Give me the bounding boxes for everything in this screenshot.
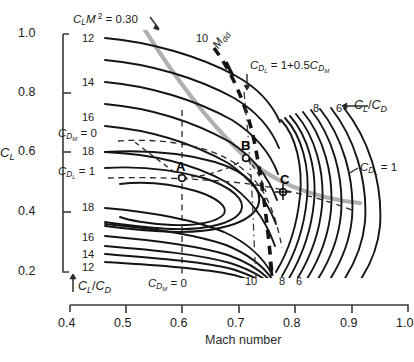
x-tick-0-6: 0.6	[170, 317, 187, 330]
boundary-ticks	[270, 262, 272, 276]
x-tick-0-4: 0.4	[58, 317, 75, 330]
y-tick-0-2: 0.2	[18, 265, 35, 278]
clm2-value: 0.30	[116, 13, 138, 25]
annotation-clm2: CLM 2 = 0.30	[73, 13, 138, 27]
x-axis-label: Mach number	[205, 334, 281, 347]
point-b-label: B	[241, 139, 250, 152]
annotation-arrows	[70, 17, 368, 292]
line-a-upper-left	[132, 140, 182, 178]
y-axis-label: CL	[0, 146, 15, 162]
x-axis	[70, 305, 408, 313]
y-tick-0-4: 0.4	[18, 205, 35, 218]
y-tick-0-6: 0.6	[18, 145, 35, 158]
y-tick-1-0: 1.0	[18, 27, 35, 40]
contour-label-14-bottom: 14	[82, 249, 94, 260]
y-axis	[63, 34, 71, 272]
point-a-marker	[179, 175, 186, 182]
x-tick-0-9: 0.9	[340, 317, 357, 330]
annotation-cdl-one-left: CDL = 1	[58, 166, 95, 181]
cdl-expr-value: 1+0.5	[281, 59, 310, 71]
point-b-marker	[243, 155, 250, 162]
figure-clcd-contour-chart: 1.0 0.8 0.6 0.4 0.2 CL 0.4 0.5 0.6 0.7 0…	[0, 0, 414, 362]
contour-arcs-right	[276, 108, 380, 303]
y-tick-0-8: 0.8	[18, 86, 35, 99]
contour-label-16-bottom: 16	[82, 232, 94, 243]
contour-label-12-top: 12	[82, 33, 94, 44]
contour-label-14-top: 14	[82, 77, 94, 88]
contour-label-6-right: 6	[336, 103, 342, 114]
contour-label-18-top: 18	[82, 146, 94, 157]
contour-label-6-bottom: 6	[296, 276, 302, 287]
annotation-cdm-zero-left: CDM = 0	[58, 128, 97, 143]
contour-label-12-bottom: 12	[82, 262, 94, 273]
x-tick-0-5: 0.5	[114, 317, 131, 330]
annotation-cdl-one-right: CDL = 1	[360, 162, 397, 177]
x-tick-0-8: 0.8	[283, 317, 300, 330]
x-tick-1-0: 1.0	[396, 317, 413, 330]
chart-svg	[0, 0, 414, 362]
cdm-zero-bottom-value: 0	[180, 277, 186, 289]
cdl-one-right-value: 1	[391, 161, 397, 173]
annotation-clcd-bottom: CL/CD	[78, 280, 111, 295]
contour-label-18-bottom: 18	[82, 202, 94, 213]
point-c-label: C	[280, 173, 289, 186]
annotation-cdm-zero-bottom: CDM = 0	[148, 278, 187, 293]
annotation-clcd-right: CL/CD	[354, 99, 387, 114]
contour-label-10-bottom: 10	[245, 276, 257, 287]
contour-label-8-bottom: 8	[279, 276, 285, 287]
point-a-label: A	[176, 160, 185, 173]
annotation-cdl-expression: CDL = 1+0.5CDM	[250, 60, 329, 75]
contour-label-16-top: 16	[82, 112, 94, 123]
contour-label-8-right: 8	[313, 103, 319, 114]
cdm-zero-left-value: 0	[90, 127, 96, 139]
x-tick-0-7: 0.7	[227, 317, 244, 330]
contour-label-10-top: 10	[196, 33, 208, 44]
cdl-one-left-value: 1	[89, 165, 95, 177]
